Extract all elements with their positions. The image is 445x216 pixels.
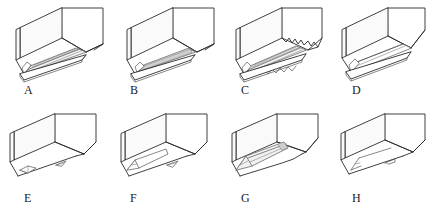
figure-sheet: A (0, 0, 445, 216)
block-g (222, 108, 333, 194)
figure-label-a: A (0, 83, 111, 97)
figure-cell-c: C (222, 0, 333, 108)
figure-cell-f: F (111, 108, 222, 216)
figure-cell-b: B (111, 0, 222, 108)
block-b (111, 0, 222, 86)
block-f (111, 108, 222, 194)
figure-cell-g: G (222, 108, 333, 216)
block-c (222, 0, 333, 86)
block-a (0, 0, 111, 86)
block-d (333, 0, 444, 86)
figure-cell-h: H (333, 108, 444, 216)
figure-label-c: C (222, 83, 333, 97)
figure-label-g: G (222, 191, 333, 205)
figure-label-d: D (333, 83, 444, 97)
figure-label-h: H (333, 191, 444, 205)
figure-row-bottom: E (0, 108, 445, 216)
figure-cell-e: E (0, 108, 111, 216)
figure-row-top: A (0, 0, 445, 108)
figure-label-f: F (111, 191, 222, 205)
figure-label-b: B (111, 83, 222, 97)
figure-cell-d: D (333, 0, 444, 108)
figure-label-e: E (0, 191, 111, 205)
block-h (333, 108, 444, 194)
figure-cell-a: A (0, 0, 111, 108)
block-e (0, 108, 111, 194)
